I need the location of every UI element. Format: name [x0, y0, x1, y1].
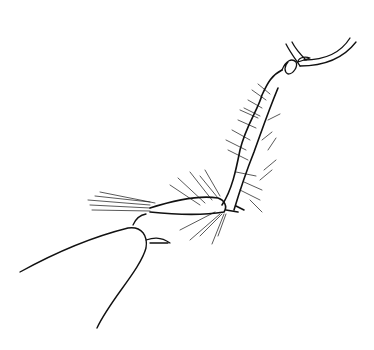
caption — [0, 342, 374, 350]
leader-line — [282, 38, 356, 74]
fly-body — [150, 70, 282, 214]
fly-drawing — [0, 0, 374, 350]
hackle-fibers — [88, 84, 280, 244]
finger-outline — [20, 228, 146, 328]
illustration — [0, 0, 374, 350]
